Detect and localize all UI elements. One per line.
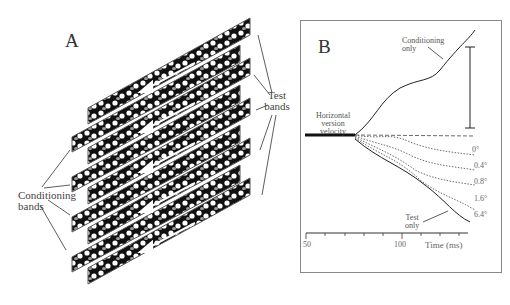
curve-label-0: 0° [472, 145, 479, 154]
curve-label-0.4: 0.4° [474, 161, 487, 170]
curve-label-1.6: 1.6° [474, 194, 487, 203]
conditioning-only-annotation: Conditioning only [402, 37, 444, 53]
x-axis-label: Time (ms) [425, 240, 462, 250]
curve-label-0.8: 0.8° [474, 177, 487, 186]
curve-label-6.4: 6.4° [474, 210, 487, 219]
x-tick-100: 100 [394, 240, 406, 249]
horizontal-version-velocity-label: Horizontal version velocity [308, 112, 358, 136]
x-tick-50: 50 [303, 240, 311, 249]
test-only-annotation: Test only [405, 214, 419, 230]
